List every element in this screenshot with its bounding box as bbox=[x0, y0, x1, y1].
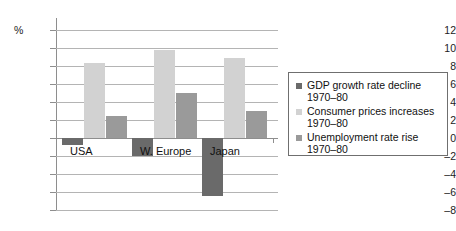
gridline bbox=[56, 210, 278, 211]
y-axis-tick-label: 10 bbox=[412, 43, 456, 54]
y-axis-tick-label: –6 bbox=[412, 187, 456, 198]
y-axis-tick-label: –8 bbox=[412, 205, 456, 216]
legend-swatch-icon bbox=[296, 109, 302, 115]
y-axis-tick-label-text: 0 bbox=[450, 133, 456, 144]
gridline bbox=[56, 174, 278, 175]
zero-line bbox=[56, 138, 278, 139]
legend-label-line2: 1970–80 bbox=[307, 144, 418, 156]
legend-item: GDP growth rate decline1970–80 bbox=[296, 80, 421, 103]
gridline bbox=[56, 192, 278, 193]
y-axis-tick-label-text: 8 bbox=[450, 61, 456, 72]
y-axis-tick bbox=[50, 30, 56, 31]
bar bbox=[106, 116, 127, 139]
x-axis-category-label: USA bbox=[70, 146, 93, 157]
chart-legend: GDP growth rate decline1970–80Consumer p… bbox=[288, 72, 448, 156]
y-axis-tick-label: 12 bbox=[412, 25, 456, 36]
legend-label: Consumer prices increases1970–80 bbox=[307, 106, 434, 129]
y-axis-tick-label-text: –6 bbox=[444, 187, 456, 198]
y-axis-tick-label: 8 bbox=[412, 61, 456, 72]
y-axis-tick bbox=[50, 84, 56, 85]
gridline bbox=[56, 30, 278, 31]
y-axis-tick-label-text: 2 bbox=[450, 115, 456, 126]
bar bbox=[176, 93, 197, 138]
y-axis-tick bbox=[50, 102, 56, 103]
y-axis-tick bbox=[50, 174, 56, 175]
legend-swatch-icon bbox=[296, 135, 302, 141]
legend-label: Unemployment rate rise1970–80 bbox=[307, 132, 418, 155]
legend-label: GDP growth rate decline1970–80 bbox=[307, 80, 421, 103]
y-axis-tick-label-text: 4 bbox=[450, 97, 456, 108]
x-axis-category-label: Japan bbox=[210, 146, 240, 157]
y-axis-tick-label-text: 10 bbox=[444, 43, 456, 54]
y-axis-tick bbox=[50, 66, 56, 67]
bar bbox=[224, 58, 245, 138]
y-axis-tick bbox=[50, 192, 56, 193]
legend-swatch-icon bbox=[296, 83, 302, 89]
y-axis-tick-label: –4 bbox=[412, 169, 456, 180]
legend-label-line2: 1970–80 bbox=[307, 118, 434, 130]
bar bbox=[84, 63, 105, 138]
y-axis-tick-label-text: 12 bbox=[444, 25, 456, 36]
x-axis-category-label: W. Europe bbox=[140, 146, 191, 157]
legend-label-line1: Unemployment rate rise bbox=[307, 131, 418, 143]
y-axis-tick-label-text: 6 bbox=[450, 79, 456, 90]
x-axis-tick bbox=[273, 138, 274, 143]
legend-item: Unemployment rate rise1970–80 bbox=[296, 132, 418, 155]
bar bbox=[246, 111, 267, 138]
y-axis-tick-label-text: –8 bbox=[444, 205, 456, 216]
y-axis-tick bbox=[50, 48, 56, 49]
y-axis-tick bbox=[50, 156, 56, 157]
legend-label-line1: GDP growth rate decline bbox=[307, 79, 421, 91]
legend-label-line2: 1970–80 bbox=[307, 92, 421, 104]
legend-label-line1: Consumer prices increases bbox=[307, 105, 434, 117]
y-axis-tick-label-text: –4 bbox=[444, 169, 456, 180]
legend-item: Consumer prices increases1970–80 bbox=[296, 106, 434, 129]
y-axis-tick bbox=[50, 120, 56, 121]
y-axis-unit-label: % bbox=[14, 25, 23, 36]
y-axis-tick bbox=[50, 210, 56, 211]
bar-chart-figure: 121086420–2–4–6–8%USAW. EuropeJapan GDP … bbox=[0, 0, 456, 231]
bar bbox=[154, 50, 175, 138]
y-axis-line bbox=[56, 18, 57, 210]
y-axis-tick bbox=[50, 138, 56, 139]
